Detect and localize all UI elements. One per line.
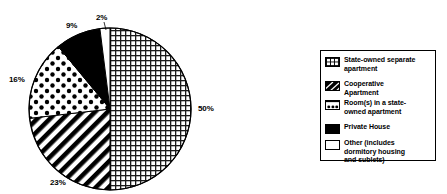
legend-item-cooperative-apartment: Cooperative Apartment <box>325 80 431 97</box>
data-label-private-house: 9% <box>66 22 77 30</box>
legend-label-line1: Cooperative <box>344 80 384 87</box>
legend-label-private-house: Private House <box>344 123 390 132</box>
pie-chart-svg <box>0 0 240 194</box>
legend-label-line2: owned apartment <box>344 108 401 115</box>
legend-item-state-owned-separate-apartment: State-owned separate apartment <box>325 56 431 73</box>
data-label-rooms-in-state-owned-apartment: 16% <box>9 76 25 84</box>
legend-label-line3: and sublets) <box>344 156 385 163</box>
legend-label-line1: Room(s) in a state- <box>344 99 406 106</box>
legend-swatch-polka-dots-icon <box>325 100 340 110</box>
data-label-cooperative-apartment: 23% <box>50 179 66 187</box>
data-label-other: 2% <box>96 14 107 22</box>
legend-item-other: Other (includes dormitory housing and su… <box>325 139 431 165</box>
legend-swatch-grid-icon <box>325 57 340 67</box>
pie-slice-state-owned-separate-apartment <box>110 28 191 190</box>
legend-swatch-diagonal-stripes-icon <box>325 81 340 91</box>
legend-label-other: Other (includes dormitory housing and su… <box>344 139 405 165</box>
legend-swatch-solid-black-icon <box>325 124 340 134</box>
legend-label-rooms-in-state-owned-apartment: Room(s) in a state- owned apartment <box>344 99 406 116</box>
pie-chart-plot-area: 50% 23% 16% 9% 2% <box>0 0 240 194</box>
legend-label-line2: apartment <box>344 65 377 72</box>
pie-chart-figure: 50% 23% 16% 9% 2% <box>0 0 447 194</box>
legend-label-line2: Apartment <box>344 89 379 96</box>
legend-item-rooms-in-state-owned-apartment: Room(s) in a state- owned apartment <box>325 99 431 116</box>
legend-label-line1: State-owned separate <box>344 56 415 63</box>
legend-swatch-white-icon <box>325 140 340 150</box>
pie-slice-cooperative-apartment <box>30 109 110 190</box>
legend-label-cooperative-apartment: Cooperative Apartment <box>344 80 384 97</box>
legend-label-state-owned-separate-apartment: State-owned separate apartment <box>344 56 415 73</box>
legend-item-private-house: Private House <box>325 123 431 134</box>
chart-legend: State-owned separate apartment Cooperati… <box>320 50 436 161</box>
legend-label-line1: Other (includes <box>344 139 395 146</box>
legend-label-line2: dormitory housing <box>344 148 405 155</box>
data-label-state-owned-separate-apartment: 50% <box>198 105 214 113</box>
